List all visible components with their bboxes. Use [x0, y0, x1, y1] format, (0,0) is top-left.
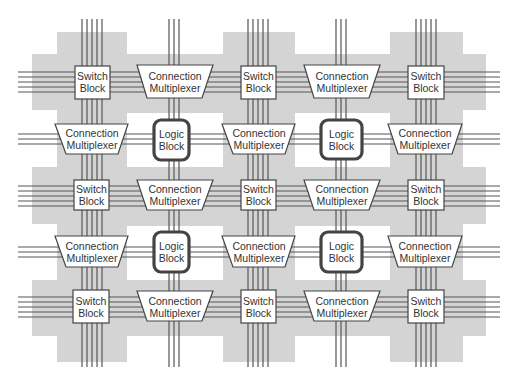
- connection-multiplexer: [222, 236, 295, 267]
- logic-block: [321, 120, 362, 159]
- logic-block: [321, 232, 362, 272]
- switch-block: [73, 290, 109, 323]
- logic-block: [154, 232, 189, 272]
- switch-block: [75, 66, 110, 99]
- connection-multiplexer: [304, 65, 380, 98]
- connection-multiplexer: [137, 291, 213, 321]
- connection-multiplexer: [137, 65, 213, 98]
- connection-multiplexer: [388, 236, 462, 267]
- switch-block: [408, 66, 444, 99]
- switch-block: [241, 66, 276, 99]
- connection-multiplexer: [222, 124, 295, 154]
- fpga-fabric-diagram: [0, 0, 518, 383]
- logic-block: [154, 120, 189, 160]
- connection-multiplexer: [55, 124, 128, 154]
- connection-multiplexer: [304, 180, 380, 210]
- switch-block: [408, 290, 444, 323]
- switch-block: [241, 180, 276, 210]
- switch-block: [408, 180, 444, 210]
- connection-multiplexer: [388, 124, 462, 154]
- switch-block: [74, 180, 109, 210]
- connection-multiplexer: [137, 180, 213, 210]
- switch-block: [241, 290, 276, 323]
- connection-multiplexer: [304, 291, 380, 321]
- connection-multiplexer: [55, 236, 128, 267]
